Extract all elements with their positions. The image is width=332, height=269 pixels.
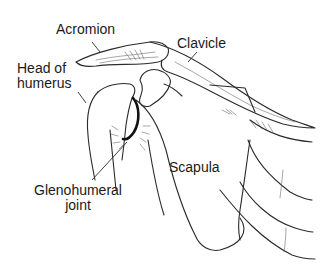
label-acromion: Acromion (56, 22, 115, 37)
label-head-of-humerus-line2: humerus (17, 76, 71, 91)
label-clavicle: Clavicle (177, 36, 226, 51)
clavicle-outline (150, 42, 315, 128)
acromion-leader (92, 42, 100, 52)
humerus-leader (78, 92, 86, 103)
scapula-outline (136, 100, 244, 250)
label-scapula: Scapula (169, 160, 220, 175)
label-head-of-humerus: Head of humerus (17, 61, 71, 91)
acromion-outline (76, 42, 169, 67)
label-glenohumeral-line1: Glenohumeral (30, 183, 126, 198)
shoulder-illustration (0, 0, 332, 269)
label-glenohumeral-joint: Glenohumeral joint (30, 183, 126, 213)
label-head-of-humerus-line1: Head of (17, 61, 71, 76)
coracoid-outline (140, 69, 171, 106)
humerus-head-outline (98, 83, 135, 160)
label-glenohumeral-line2: joint (30, 198, 126, 213)
glenohumeral-leader (92, 142, 127, 180)
shoulder-anatomy-diagram: Acromion Clavicle Head of humerus Scapul… (0, 0, 332, 269)
